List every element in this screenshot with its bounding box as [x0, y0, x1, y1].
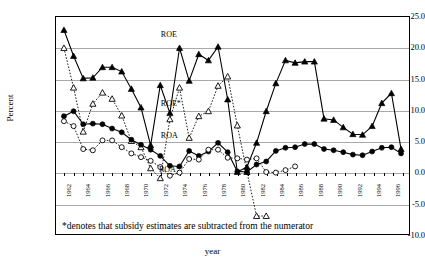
data-point-marker	[388, 90, 394, 96]
x-axis-tick-label: 1986	[298, 184, 305, 197]
data-point-marker	[283, 168, 288, 173]
data-point-marker	[187, 157, 192, 162]
data-point-marker	[264, 170, 269, 175]
data-point-marker	[80, 129, 86, 135]
data-point-marker	[128, 86, 134, 92]
data-point-marker	[282, 57, 288, 63]
data-point-marker	[187, 148, 192, 153]
data-point-marker	[90, 121, 95, 126]
series-label-roa-star: ROA*	[159, 166, 180, 174]
data-point-marker	[71, 53, 77, 59]
data-point-marker	[119, 113, 125, 119]
data-point-marker	[81, 122, 86, 127]
data-point-marker	[216, 140, 221, 145]
data-point-marker	[90, 148, 95, 153]
data-point-marker	[322, 147, 327, 152]
data-point-marker	[283, 145, 288, 150]
x-axis-tick-label: 1976	[202, 184, 209, 197]
data-point-marker	[110, 138, 115, 143]
data-point-marker	[293, 164, 298, 169]
data-point-marker	[109, 96, 115, 102]
data-point-marker	[244, 157, 249, 162]
data-point-marker	[176, 45, 182, 51]
data-point-marker	[235, 169, 240, 174]
data-point-marker	[148, 165, 154, 171]
data-point-marker	[119, 145, 124, 150]
data-point-marker	[369, 123, 375, 129]
chart-container: Percent 25.020.015.010.05.00.0-5.0-10.0 …	[0, 0, 425, 265]
data-point-marker	[273, 148, 278, 153]
y-axis-title: Percent	[5, 95, 15, 122]
data-point-marker	[129, 151, 134, 156]
data-point-marker	[186, 135, 192, 141]
data-point-marker	[293, 145, 298, 150]
data-point-marker	[196, 157, 201, 162]
data-point-marker	[157, 82, 163, 88]
data-point-marker	[264, 159, 269, 164]
x-axis-tick-label: 1974	[182, 184, 189, 197]
data-point-marker	[263, 213, 269, 219]
data-point-marker	[158, 153, 163, 158]
data-point-marker	[119, 68, 125, 74]
data-point-marker	[399, 151, 404, 156]
series-label-roe: ROE	[161, 31, 177, 39]
x-axis-tick-label: 1994	[376, 184, 383, 197]
data-point-marker	[215, 44, 221, 50]
data-point-marker	[370, 149, 375, 154]
x-axis-tick-label: 1964	[85, 184, 92, 197]
data-point-marker	[157, 175, 163, 181]
data-point-marker	[176, 85, 182, 91]
data-point-marker	[110, 126, 115, 131]
data-point-marker	[61, 119, 66, 124]
data-point-marker	[312, 142, 317, 147]
data-point-marker	[225, 150, 230, 155]
data-point-marker	[129, 137, 134, 142]
data-point-marker	[148, 147, 153, 152]
data-point-marker	[167, 173, 172, 178]
data-point-marker	[254, 156, 259, 161]
x-axis-tick-label: 1996	[395, 184, 402, 197]
data-point-marker	[350, 152, 355, 157]
x-axis-tick-label: 1978	[221, 184, 228, 197]
data-point-marker	[321, 116, 327, 122]
data-point-marker	[138, 104, 144, 110]
x-axis-title: year	[0, 246, 425, 256]
x-axis-tick-label: 1970	[143, 184, 150, 197]
x-axis-tick-label: 1962	[66, 184, 73, 197]
data-point-marker	[61, 114, 66, 119]
data-point-marker	[81, 147, 86, 152]
data-point-marker	[196, 113, 202, 119]
data-point-marker	[100, 138, 105, 143]
data-point-marker	[99, 90, 105, 96]
data-point-marker	[100, 122, 105, 127]
data-point-marker	[273, 170, 278, 175]
data-point-marker	[379, 145, 384, 150]
data-point-marker	[196, 51, 202, 57]
x-axis-tick-label: 1966	[105, 184, 112, 197]
series-label-roa: ROA	[161, 132, 178, 140]
x-axis-tick-labels: 1962196419661968197019721974197619781980…	[55, 182, 410, 212]
data-point-marker	[225, 73, 231, 79]
x-axis-tick-label: 1988	[318, 184, 325, 197]
data-point-marker	[186, 78, 192, 84]
data-point-marker	[244, 170, 249, 175]
data-point-marker	[119, 130, 124, 135]
data-point-marker	[205, 108, 211, 114]
data-point-marker	[167, 116, 173, 122]
data-point-marker	[253, 140, 259, 146]
data-point-marker	[61, 45, 67, 51]
data-point-marker	[234, 122, 240, 128]
x-axis-tick-label: 1972	[163, 184, 170, 197]
x-axis-tick-label: 1968	[124, 184, 131, 197]
data-point-marker	[235, 156, 240, 161]
data-point-marker	[263, 108, 269, 114]
data-point-marker	[71, 85, 77, 91]
data-point-marker	[61, 27, 67, 33]
series-label-roe-star: ROE*	[161, 100, 181, 108]
data-point-marker	[225, 96, 231, 102]
data-point-marker	[216, 147, 221, 152]
x-axis-tick-label: 1990	[337, 184, 344, 197]
data-point-marker	[273, 80, 279, 86]
data-point-marker	[206, 147, 211, 152]
data-point-marker	[254, 162, 259, 167]
